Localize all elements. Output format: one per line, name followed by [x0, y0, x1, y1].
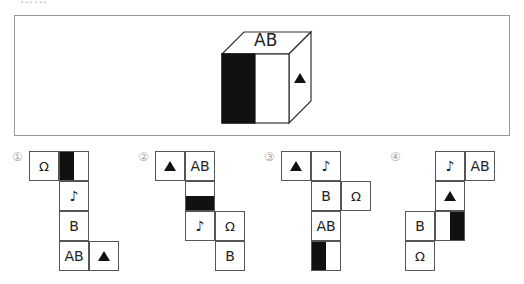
music-note-icon: ♪ — [446, 158, 455, 174]
header-fragment: …… — [20, 0, 48, 6]
net-face — [155, 151, 185, 181]
net-face: ♪ — [185, 211, 215, 241]
option-label-3[interactable]: ③ — [264, 150, 275, 164]
net-face: B — [311, 181, 341, 211]
net-face: ♪ — [435, 151, 465, 181]
face-label: AB — [190, 158, 209, 174]
net-face: Ω — [341, 181, 371, 211]
face-label: AB — [316, 218, 335, 234]
face-label: B — [225, 248, 235, 264]
face-label: B — [321, 188, 331, 204]
cube-black-stripe — [222, 54, 255, 123]
net-face: AB — [465, 151, 495, 181]
black-stripe — [186, 196, 214, 210]
face-label: B — [69, 218, 79, 234]
net-face — [281, 151, 311, 181]
net-face: B — [59, 211, 89, 241]
net-face — [435, 181, 465, 211]
net-face: Ω — [29, 151, 59, 181]
face-label: B — [415, 218, 425, 234]
net-face: Ω — [405, 241, 435, 271]
question-box: AB — [14, 15, 510, 136]
triangle-icon — [98, 251, 110, 261]
net-face: B — [405, 211, 435, 241]
net-face: ♪ — [311, 151, 341, 181]
triangle-icon — [290, 161, 302, 171]
net-face — [89, 241, 119, 271]
net-face: ♪ — [59, 181, 89, 211]
net-face — [311, 241, 341, 271]
net-face: AB — [311, 211, 341, 241]
net-face — [435, 211, 465, 241]
net-face: B — [215, 241, 245, 271]
net-face: Ω — [215, 211, 245, 241]
net-face: AB — [185, 151, 215, 181]
net-face — [185, 181, 215, 211]
net-face — [59, 151, 89, 181]
face-label: AB — [470, 158, 489, 174]
option-label-1[interactable]: ① — [12, 150, 23, 164]
triangle-icon — [164, 161, 176, 171]
option-label-2[interactable]: ② — [138, 150, 149, 164]
option-label-4[interactable]: ④ — [390, 150, 401, 164]
music-note-icon: ♪ — [322, 158, 331, 174]
black-stripe — [450, 212, 464, 240]
cube-top-label: AB — [254, 30, 277, 50]
black-stripe — [312, 242, 326, 270]
net-face: AB — [59, 241, 89, 271]
omega-symbol: Ω — [415, 249, 425, 264]
omega-symbol: Ω — [39, 159, 49, 174]
music-note-icon: ♪ — [196, 218, 205, 234]
face-label: AB — [64, 248, 83, 264]
omega-symbol: Ω — [225, 219, 235, 234]
black-stripe — [60, 152, 74, 180]
music-note-icon: ♪ — [70, 188, 79, 204]
omega-symbol: Ω — [351, 189, 361, 204]
triangle-icon — [444, 191, 456, 201]
